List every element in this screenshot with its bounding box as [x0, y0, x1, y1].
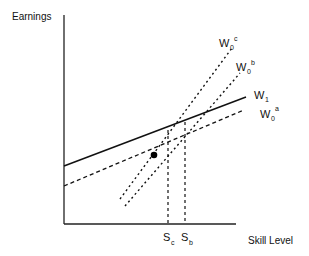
intersection-point — [151, 152, 158, 159]
svg-text:W: W — [260, 108, 271, 120]
svg-text:c: c — [234, 35, 238, 42]
svg-text:0: 0 — [247, 68, 251, 75]
line-w0b — [125, 73, 240, 206]
svg-text:0: 0 — [271, 115, 275, 122]
label-sb: S b — [181, 231, 193, 246]
svg-text:c: c — [171, 239, 175, 246]
label-w0c: W 0 c — [219, 35, 238, 51]
svg-text:S: S — [163, 231, 170, 243]
label-w0a: W 0 a — [260, 105, 279, 122]
y-axis-label: Earnings — [12, 11, 51, 22]
line-w0a — [64, 110, 244, 186]
svg-text:b: b — [189, 239, 193, 246]
svg-text:W: W — [219, 37, 230, 49]
svg-text:W: W — [236, 61, 247, 73]
svg-text:a: a — [275, 105, 279, 112]
svg-text:1: 1 — [265, 96, 269, 103]
svg-text:S: S — [181, 231, 188, 243]
label-w1: W 1 — [254, 89, 269, 103]
label-w0b: W 0 b — [236, 59, 255, 75]
svg-text:b: b — [251, 59, 255, 66]
x-axis-label: Skill Level — [248, 235, 293, 246]
diagram-canvas: Earnings Skill Level W 0 c W 0 b W 1 W 0… — [0, 0, 309, 256]
svg-text:W: W — [254, 89, 265, 101]
label-sc: S c — [163, 231, 175, 246]
svg-text:0: 0 — [230, 44, 234, 51]
